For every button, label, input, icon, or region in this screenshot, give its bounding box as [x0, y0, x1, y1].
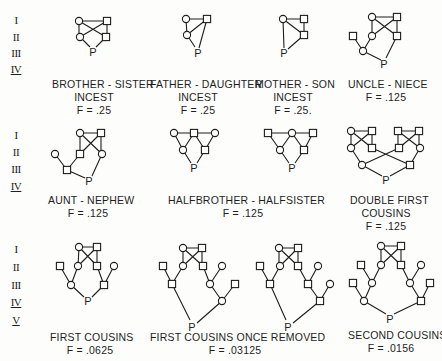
caption-title-line2: COUSINS — [350, 207, 422, 220]
caption-double-first-cousins: DOUBLE FIRST COUSINS F = .125 — [350, 194, 422, 233]
caption-uncle-niece: UNCLE - NIECE F = .125 — [348, 78, 424, 104]
coefficient-value: F = .25. — [255, 104, 331, 117]
coefficient-value: F = .0625 — [50, 344, 130, 357]
pedigree-second-cousins — [349, 242, 433, 314]
pedigree-mother-son — [279, 15, 307, 49]
caption-halfbrother-halfsister: HALFBROTHER - HALFSISTER F = .125 — [168, 194, 318, 220]
proband-label: P — [386, 313, 393, 325]
caption-first-cousins: FIRST COUSINS F = .0625 — [50, 331, 130, 357]
caption-title-line2: INCEST — [255, 91, 331, 104]
pedigree-father-daughter — [182, 15, 210, 48]
caption-title: FATHER - DAUGHTER — [150, 78, 246, 91]
caption-title: BROTHER - SISTER — [52, 78, 136, 91]
coefficient-value: F = .0156 — [348, 342, 434, 355]
coefficient-value: F = .125 — [48, 207, 128, 220]
proband-label: P — [280, 47, 287, 59]
coefficient-value: F = .03125 — [150, 344, 320, 357]
pedigree-double-first-cousins — [347, 127, 423, 176]
pedigree-uncle-niece — [349, 13, 400, 60]
pedigree-halfsibling-paternal — [170, 129, 218, 163]
pedigree-aunt-nephew — [51, 129, 105, 178]
caption-father-daughter: FATHER - DAUGHTER INCEST F = .25 — [150, 78, 246, 117]
caption-title: MOTHER - SON — [255, 78, 331, 91]
caption-second-cousins: SECOND COUSINS F = .0156 — [348, 329, 434, 355]
coefficient-value: F = .125 — [348, 91, 424, 104]
caption-brother-sister: BROTHER - SISTER INCEST F = .25 — [52, 78, 136, 117]
coefficient-value: F = .125 — [168, 207, 318, 220]
pedigree-brother-sister — [75, 17, 110, 47]
proband-label: P — [89, 46, 96, 58]
proband-label: P — [190, 162, 197, 174]
caption-title: DOUBLE FIRST — [350, 194, 422, 207]
pedigree-first-cousins-once-removed-a — [159, 244, 238, 323]
coefficient-value: F = .25 — [52, 104, 136, 117]
proband-label: P — [84, 295, 91, 307]
caption-title: FIRST COUSINS — [50, 331, 130, 344]
proband-label: P — [382, 174, 389, 186]
caption-title-line2: INCEST — [150, 91, 246, 104]
caption-title: HALFBROTHER - HALFSISTER — [168, 194, 318, 207]
pedigree-first-cousins-once-removed-b — [256, 244, 333, 323]
proband-label: P — [85, 175, 92, 187]
caption-title: UNCLE - NIECE — [348, 78, 424, 91]
caption-title: AUNT - NEPHEW — [48, 194, 128, 207]
proband-label: P — [380, 58, 387, 70]
pedigree-diagrams: P P P P P P P P P P P P — [0, 0, 442, 361]
pedigree-first-cousins — [56, 243, 117, 297]
coefficient-value: F = .125 — [350, 220, 422, 233]
coefficient-value: F = .25 — [150, 104, 246, 117]
proband-label: P — [288, 162, 295, 174]
pedigree-halfsibling-maternal — [264, 129, 316, 163]
caption-aunt-nephew: AUNT - NEPHEW F = .125 — [48, 194, 128, 220]
caption-title: SECOND COUSINS — [348, 329, 434, 342]
caption-title-line2: INCEST — [52, 91, 136, 104]
caption-first-cousins-once-removed: FIRST COUSINS ONCE REMOVED F = .03125 — [150, 331, 320, 357]
caption-title: FIRST COUSINS ONCE REMOVED — [150, 331, 320, 344]
caption-mother-son: MOTHER - SON INCEST F = .25. — [255, 78, 331, 117]
proband-label: P — [194, 47, 201, 59]
